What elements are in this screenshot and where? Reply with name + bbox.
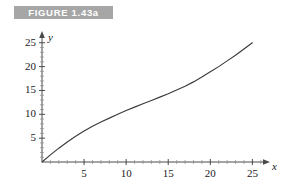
x-tick-label: 10 <box>117 167 135 179</box>
y-tick-label: 15 <box>14 83 36 95</box>
x-axis-label: x <box>272 160 277 172</box>
figure-panel: FIGURE 1.43a 510152025510152025 y x <box>0 0 290 195</box>
y-tick-label: 25 <box>14 36 36 48</box>
y-tick-label: 20 <box>14 60 36 72</box>
data-curve <box>42 43 252 162</box>
x-tick-label: 15 <box>159 167 177 179</box>
x-axis-arrowhead <box>263 159 270 165</box>
y-axis-label: y <box>48 31 53 43</box>
axes-group <box>39 31 270 165</box>
x-tick-label: 20 <box>201 167 219 179</box>
y-tick-label: 5 <box>14 131 36 143</box>
minor-tick-marks <box>40 48 261 164</box>
chart-plot <box>0 0 290 195</box>
y-axis-arrowhead <box>39 31 45 38</box>
x-tick-label: 25 <box>243 167 261 179</box>
major-tick-marks <box>39 43 252 165</box>
y-tick-label: 10 <box>14 107 36 119</box>
x-tick-label: 5 <box>75 167 93 179</box>
